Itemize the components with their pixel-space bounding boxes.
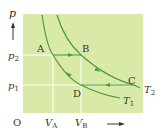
pv-diagram: p p2 p1 O VA VB A B C D T2 T1 — [0, 0, 163, 139]
vb-label: VB — [75, 117, 87, 130]
va-label: VA — [45, 117, 58, 130]
p1-label: p1 — [8, 80, 19, 93]
point-c-label: C — [128, 75, 136, 86]
point-b-label: B — [82, 43, 89, 54]
p2-label: p2 — [8, 50, 19, 63]
point-a-label: A — [36, 43, 45, 54]
origin-label: O — [13, 117, 21, 128]
t2-label: T2 — [144, 84, 155, 97]
v-axis-arrow-icon — [119, 122, 125, 126]
point-d-label: D — [73, 88, 81, 99]
p-axis-label: p — [9, 7, 16, 20]
p-axis-arrow-icon — [11, 22, 15, 28]
